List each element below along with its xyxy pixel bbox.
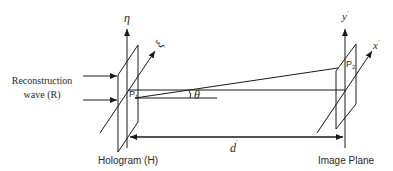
eta-axis-label: η [124, 11, 130, 25]
p2-label: P2 [346, 59, 356, 70]
hologram-reconstruction-diagram: Reconstruction wave (R) η ξ P1 θ d' y' x… [0, 0, 393, 171]
y-prime-axis-label: y' [341, 10, 349, 22]
xi-axis-label: ξ [152, 37, 167, 50]
reconstruction-wave-label-line1: Reconstruction [12, 75, 73, 86]
image-plane [336, 44, 356, 129]
reconstruction-wave-label-line2: wave (R) [24, 89, 61, 101]
theta-label: θ [194, 88, 200, 102]
angle-arc-icon [189, 91, 191, 98]
x-prime-axis-label: x' [372, 39, 380, 51]
distance-label: d' [230, 139, 238, 155]
hologram-label: Hologram (H) [98, 155, 158, 166]
image-plane-label: Image Plane [318, 155, 375, 166]
ray-p1-to-p2 [135, 68, 338, 98]
